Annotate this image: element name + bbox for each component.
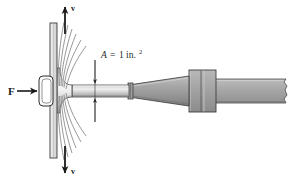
punch-shaft <box>72 85 129 97</box>
velocity-top-label: v <box>71 4 75 13</box>
rear-rod <box>213 79 287 103</box>
area-label: A = 1 in. 2 <box>100 48 142 61</box>
figure-canvas: F v v A = 1 in. 2 <box>0 0 297 181</box>
tapered-cone <box>132 76 189 106</box>
handle-plate <box>39 76 53 106</box>
area-symbol: A <box>100 50 107 60</box>
force-label: F <box>8 85 15 97</box>
area-unit-exponent: 2 <box>139 48 142 55</box>
area-value: 1 <box>119 50 124 60</box>
area-equals: = <box>110 50 115 60</box>
velocity-bottom-label: v <box>71 167 75 176</box>
collar-block <box>189 70 216 112</box>
area-unit: in. <box>126 50 136 60</box>
punch-shear-figure: F v v A = 1 in. 2 <box>0 0 297 181</box>
